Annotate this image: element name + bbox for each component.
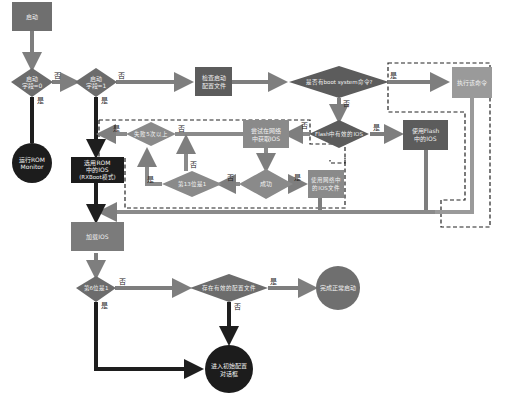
label-reg0-no: 否: [54, 72, 61, 80]
label-flash-yes: 是: [373, 124, 380, 132]
label-reg0-yes: 是: [37, 97, 44, 105]
node-valid-config-label: 存在有效的配置文件: [202, 284, 256, 292]
node-rom-monitor-line2: Monitor: [21, 163, 44, 170]
node-rom-monitor: 运行ROM Monitor: [12, 143, 52, 183]
label-valid-yes: 是: [270, 278, 277, 286]
node-config-register-0: 启动 字段=0: [11, 68, 53, 97]
node-bit13-is-1: 第13位是1: [162, 171, 222, 197]
node-failed-5-times: 失败5次以上: [126, 122, 176, 146]
label-success-yes: 是: [294, 174, 301, 182]
node-use-flash-ios: 使用Flash 中的IOS: [403, 120, 448, 150]
label-flash-no: 否: [301, 122, 308, 130]
node-bit13-label: 第13位是1: [178, 180, 207, 188]
node-try-net-line1: 尝试在网络: [251, 127, 281, 135]
boot-flowchart: 启动 启动 字段=0 启动 字段=1 运行ROM Monitor 检查启动 配置…: [0, 0, 514, 400]
node-use-net-line2: 的IOS文件: [312, 184, 339, 192]
node-rom-ios-rxboot: 选用ROM 中的IOS (RXBoot模式): [71, 157, 124, 183]
node-check-config-line1: 检查启动: [202, 74, 226, 82]
node-execute-command: 执行该命令: [452, 67, 492, 98]
edge-exec-down: [435, 98, 472, 212]
node-try-net-line2: 中获取IOS: [252, 135, 280, 143]
label-reg1-no: 否: [118, 72, 125, 80]
node-bit6-is-1: 第6位是1: [76, 276, 116, 302]
node-start-label: 启动: [26, 13, 38, 21]
node-done-label: 完成正常启动: [320, 284, 356, 292]
label-reg1-yes: 是: [101, 97, 108, 105]
node-valid-config-exists: 存在有效的配置文件: [190, 274, 268, 302]
label-fail-yes: 是: [113, 125, 120, 133]
node-use-flash-line2: 中的IOS: [414, 135, 436, 143]
node-bit6-label: 第6位是1: [84, 284, 109, 292]
node-boot-system-label: 是否有boot system命令?: [306, 78, 373, 86]
node-normal-boot-complete: 完成正常启动: [316, 266, 360, 310]
label-bit13-yes: 是: [147, 176, 154, 184]
label-valid-no: 否: [234, 303, 241, 311]
node-fail5-label: 失败5次以上: [134, 130, 168, 138]
node-use-network-ios: 使用网络中 的IOS文件: [308, 170, 344, 198]
node-load-ios: 加载IOS: [71, 222, 124, 251]
label-success-no: 否: [227, 174, 234, 182]
node-rom-ios-line2: 中的IOS: [86, 166, 108, 174]
node-reg1-line2: 字段=1: [86, 82, 107, 90]
node-rom-ios-line3: (RXBoot模式): [79, 173, 116, 181]
node-start: 启动: [12, 2, 52, 31]
label-boot-yes: 是: [390, 72, 397, 80]
node-boot-system-command: 是否有boot system命令?: [289, 66, 389, 98]
label-boot-no: 否: [343, 100, 350, 108]
node-try-network-ios: 尝试在网络 中获取IOS: [243, 120, 289, 148]
node-check-startup-config: 检查启动 配置文件: [195, 67, 232, 96]
edge-bit6-yes: [96, 302, 198, 369]
node-load-ios-label: 加载IOS: [86, 233, 108, 241]
node-flash-ios-label: Flash中有效的IOS: [315, 130, 363, 138]
node-use-net-line1: 使用网络中: [311, 176, 341, 184]
node-check-config-line2: 配置文件: [202, 82, 226, 90]
node-exec-cmd-label: 执行该命令: [457, 79, 487, 87]
label-bit13-no: 否: [190, 161, 197, 169]
node-setup-dialog: 进入初始配置 对话框: [205, 345, 253, 393]
node-success-label: 成功: [260, 180, 272, 188]
node-config-register-1: 启动 字段=1: [75, 68, 117, 97]
node-setup-line2: 对话框: [220, 370, 238, 378]
label-fail-no: 否: [178, 125, 185, 133]
node-setup-line1: 进入初始配置: [211, 362, 247, 370]
node-use-flash-line1: 使用Flash: [412, 127, 440, 135]
node-reg0-line2: 字段=0: [22, 82, 43, 90]
node-success: 成功: [239, 169, 293, 199]
label-bit6-yes: 是: [101, 302, 108, 310]
label-bit6-no: 否: [119, 278, 126, 286]
